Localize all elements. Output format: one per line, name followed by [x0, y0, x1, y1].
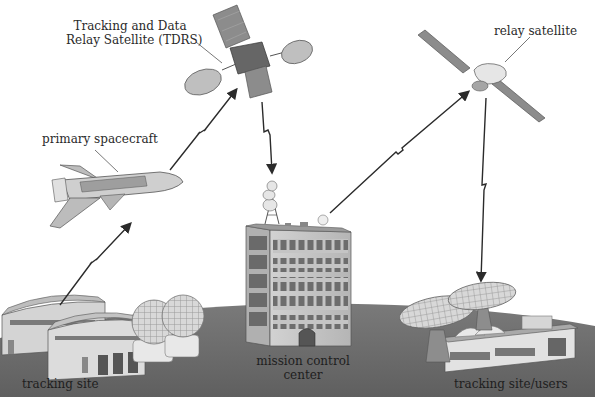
leader-lines — [95, 37, 530, 172]
link-shuttle-to-tdrs — [170, 90, 236, 170]
relay-satellite-illustration — [418, 30, 545, 122]
mission-control-label-line1: mission control — [248, 354, 358, 368]
primary-spacecraft-illustration — [50, 165, 183, 228]
tdrs-label-line1: Tracking and Data — [66, 19, 194, 33]
mission-control-label: mission control center — [248, 354, 358, 382]
primary-spacecraft-label: primary spacecraft — [42, 132, 158, 146]
tracking-site-label: tracking site — [22, 377, 99, 391]
link-relay-to-users — [481, 98, 486, 280]
mission-control-label-line2: center — [248, 368, 358, 382]
link-tdrs-to-mcc — [262, 102, 272, 172]
tdrs-label-line2: Relay Satellite (TDRS) — [66, 33, 194, 47]
link-mcc-to-relay — [330, 92, 468, 213]
tdrs-label: Tracking and Data Relay Satellite (TDRS) — [66, 19, 194, 47]
tracking-site-users-label: tracking site/users — [454, 377, 568, 391]
mission-control-building-illustration — [246, 181, 351, 346]
diagram-canvas — [0, 0, 595, 405]
tdrs-satellite-illustration — [181, 5, 316, 100]
relay-satellite-label: relay satellite — [494, 24, 577, 38]
link-site-to-shuttle — [60, 224, 130, 305]
